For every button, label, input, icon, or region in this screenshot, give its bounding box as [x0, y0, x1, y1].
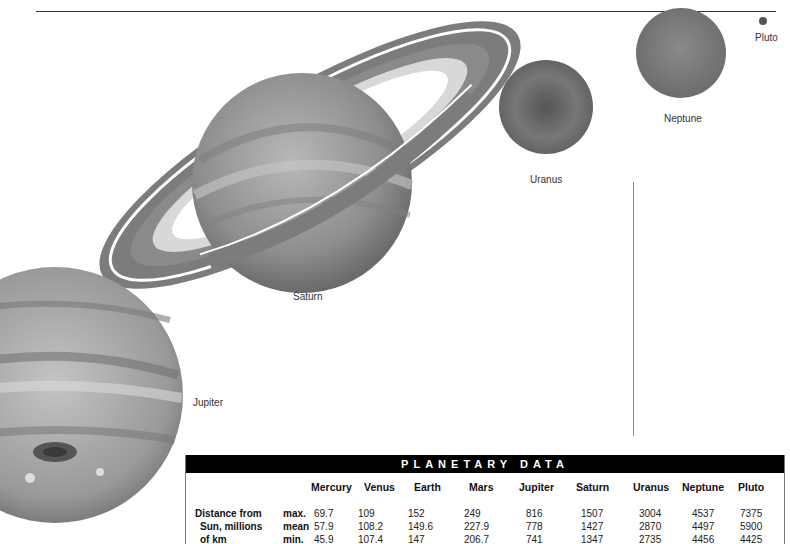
sub-label-mean: mean — [283, 521, 309, 532]
table-cell: 5900 — [740, 521, 762, 532]
col-header-mars: Mars — [469, 481, 494, 493]
table-cell: 2870 — [639, 521, 661, 532]
table-cell: 107.4 — [358, 534, 383, 544]
table-cell: 149.6 — [408, 521, 433, 532]
table-cell: 1507 — [581, 508, 603, 519]
table-cell: 7375 — [740, 508, 762, 519]
col-header-saturn: Saturn — [576, 481, 609, 493]
sub-label-min: min. — [283, 534, 304, 544]
jupiter-label: Jupiter — [193, 397, 223, 408]
row-label-line2: Sun, millions — [200, 521, 262, 532]
table-cell: 4497 — [692, 521, 714, 532]
uranus-planet — [499, 60, 593, 154]
table-cell: 152 — [408, 508, 425, 519]
col-header-mercury: Mercury — [311, 481, 352, 493]
table-cell: 4456 — [692, 534, 714, 544]
row-label-line3: of km — [200, 534, 227, 544]
table-cell: 2735 — [639, 534, 661, 544]
table-cell: 109 — [358, 508, 375, 519]
jupiter-planet — [0, 267, 183, 523]
table-cell: 206.7 — [464, 534, 489, 544]
table-cell: 227.9 — [464, 521, 489, 532]
col-header-pluto: Pluto — [738, 481, 764, 493]
table-cell: 1427 — [581, 521, 603, 532]
col-header-neptune: Neptune — [682, 481, 724, 493]
table-cell: 108.2 — [358, 521, 383, 532]
planetary-data-table: PLANETARY DATA Mercury Venus Earth Mars … — [185, 455, 785, 544]
table-cell: 249 — [464, 508, 481, 519]
uranus-label: Uranus — [530, 174, 562, 185]
saturn-label: Saturn — [293, 291, 322, 302]
table-cell: 147 — [408, 534, 425, 544]
table-cell: 778 — [526, 521, 543, 532]
col-header-venus: Venus — [364, 481, 395, 493]
neptune-planet — [636, 8, 726, 98]
sub-label-max: max. — [283, 508, 306, 519]
col-header-jupiter: Jupiter — [519, 481, 554, 493]
table-cell: 4537 — [692, 508, 714, 519]
table-cell: 57.9 — [314, 521, 333, 532]
row-label-line1: Distance from — [195, 508, 262, 519]
col-header-uranus: Uranus — [633, 481, 669, 493]
table-cell: 741 — [526, 534, 543, 544]
col-header-earth: Earth — [414, 481, 441, 493]
table-title: PLANETARY DATA — [186, 455, 784, 473]
pluto-label: Pluto — [755, 32, 778, 43]
table-cell: 45.9 — [314, 534, 333, 544]
table-cell: 1347 — [581, 534, 603, 544]
table-cell: 3004 — [639, 508, 661, 519]
table-cell: 816 — [526, 508, 543, 519]
pluto-planet — [759, 17, 767, 25]
neptune-label: Neptune — [664, 113, 702, 124]
table-cell: 4425 — [740, 534, 762, 544]
table-cell: 69.7 — [314, 508, 333, 519]
